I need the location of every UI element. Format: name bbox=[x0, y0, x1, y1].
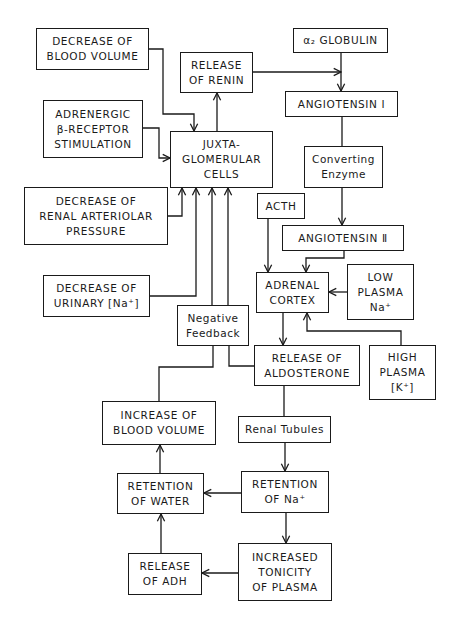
node-label: CORTEX bbox=[270, 293, 316, 308]
node-label: RELEASE bbox=[139, 559, 190, 574]
node-release-renin: RELEASE OF RENIN bbox=[180, 52, 253, 93]
raas-flowchart: DECREASE OF BLOOD VOLUME RELEASE OF RENI… bbox=[0, 0, 457, 621]
edge-aldosterone-to-juxta-a bbox=[229, 346, 254, 366]
node-label: PLASMA bbox=[379, 365, 425, 380]
node-high-plasma-k: HIGH PLASMA [K⁺] bbox=[369, 345, 436, 400]
node-label: ADRENAL bbox=[265, 278, 319, 293]
node-alpha2-globulin: α₂ GLOBULIN bbox=[293, 28, 388, 53]
node-label: BLOOD VOLUME bbox=[47, 49, 139, 64]
node-converting-enzyme: Converting Enzyme bbox=[304, 146, 383, 188]
node-label: Negative bbox=[187, 311, 238, 326]
node-juxtaglomerular-cells: JUXTA- GLOMERULAR CELLS bbox=[170, 131, 273, 188]
node-label: RETENTION bbox=[128, 479, 194, 494]
node-label: OF Na⁺ bbox=[264, 492, 305, 507]
node-label: URINARY [Na⁺] bbox=[54, 296, 139, 311]
node-label: OF PLASMA bbox=[252, 580, 318, 595]
node-label: INCREASED bbox=[252, 550, 318, 565]
node-decrease-urinary-na: DECREASE OF URINARY [Na⁺] bbox=[43, 275, 150, 317]
node-acth: ACTH bbox=[257, 193, 305, 219]
node-label: PRESSURE bbox=[66, 224, 126, 239]
node-label: ADRENERGIC bbox=[55, 107, 131, 122]
node-retention-na: RETENTION OF Na⁺ bbox=[241, 471, 329, 513]
edge-blood-volume-to-feedback bbox=[159, 346, 213, 401]
node-label: [K⁺] bbox=[391, 380, 414, 395]
node-label: STIMULATION bbox=[54, 137, 132, 152]
node-retention-water: RETENTION OF WATER bbox=[117, 473, 204, 514]
edge-adrenergic-to-juxta bbox=[143, 128, 170, 158]
node-label: OF RENIN bbox=[189, 73, 244, 88]
node-decrease-blood-volume: DECREASE OF BLOOD VOLUME bbox=[36, 28, 149, 70]
node-label: DECREASE OF bbox=[56, 281, 137, 296]
node-angiotensin-1: ANGIOTENSIN Ⅰ bbox=[285, 91, 398, 117]
node-label: ACTH bbox=[265, 199, 296, 214]
node-label: ANGIOTENSIN Ⅰ bbox=[298, 97, 385, 112]
node-label: OF ADH bbox=[143, 574, 187, 589]
node-label: α₂ GLOBULIN bbox=[303, 33, 378, 48]
node-increased-tonicity: INCREASED TONICITY OF PLASMA bbox=[238, 543, 332, 601]
node-release-adh: RELEASE OF ADH bbox=[128, 553, 202, 595]
node-adrenal-cortex: ADRENAL CORTEX bbox=[256, 272, 329, 313]
node-label: JUXTA- bbox=[203, 137, 241, 152]
node-renal-tubules: Renal Tubules bbox=[238, 416, 331, 443]
node-renal-arteriolar-pressure: DECREASE OF RENAL ARTERIOLAR PRESSURE bbox=[24, 187, 168, 245]
node-label: TONICITY bbox=[258, 565, 312, 580]
node-label: LOW bbox=[368, 270, 394, 285]
node-label: Renal Tubules bbox=[245, 422, 324, 437]
node-label: HIGH bbox=[388, 350, 417, 365]
node-label: DECREASE OF bbox=[56, 194, 137, 209]
node-increase-blood-volume: INCREASE OF BLOOD VOLUME bbox=[102, 401, 216, 445]
node-label: β-RECEPTOR bbox=[57, 122, 130, 137]
node-label: ALDOSTERONE bbox=[264, 366, 350, 381]
node-label: GLOMERULAR bbox=[182, 152, 261, 167]
node-label: DECREASE OF bbox=[52, 34, 133, 49]
node-label: OF WATER bbox=[131, 494, 190, 509]
node-label: Converting bbox=[312, 152, 375, 167]
edge-ang2-to-adrenal bbox=[306, 251, 344, 272]
node-label: RENAL ARTERIOLAR bbox=[39, 209, 153, 224]
node-label: BLOOD VOLUME bbox=[113, 423, 205, 438]
node-label: Na⁺ bbox=[370, 300, 392, 315]
node-label: Enzyme bbox=[321, 167, 366, 182]
node-angiotensin-2: ANGIOTENSIN Ⅱ bbox=[282, 225, 404, 251]
node-negative-feedback: Negative Feedback bbox=[177, 305, 249, 346]
node-adrenergic-stimulation: ADRENERGIC β-RECEPTOR STIMULATION bbox=[43, 100, 143, 158]
node-low-plasma-na: LOW PLASMA Na⁺ bbox=[347, 264, 414, 320]
edge-arteriolar-to-juxta bbox=[168, 188, 182, 216]
node-release-aldosterone: RELEASE OF ALDOSTERONE bbox=[254, 345, 360, 386]
node-label: ANGIOTENSIN Ⅱ bbox=[298, 231, 387, 246]
node-label: Feedback bbox=[186, 326, 240, 341]
node-label: CELLS bbox=[204, 167, 239, 182]
node-label: RELEASE OF bbox=[272, 351, 343, 366]
node-label: PLASMA bbox=[357, 285, 403, 300]
node-label: INCREASE OF bbox=[121, 408, 198, 423]
node-label: RELEASE bbox=[191, 58, 242, 73]
node-label: RETENTION bbox=[252, 477, 318, 492]
